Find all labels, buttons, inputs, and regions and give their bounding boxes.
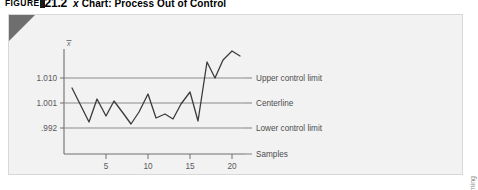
x-tick-label-20: 20 — [227, 162, 237, 171]
copyright-credit: © Cengage Learning — [469, 176, 476, 190]
figure-title: x Chart: Process Out of Control — [73, 0, 226, 9]
lower-control-limit-label: Lower control limit — [256, 124, 323, 133]
y-axis-title: x — [66, 40, 71, 47]
figure-panel: x 1.010 1.001 .992 5 10 15 20 — [8, 14, 463, 175]
centerline-label: Centerline — [256, 99, 294, 108]
figure-number: 21.2 — [45, 0, 68, 10]
figure-title-text: Chart: Process Out of Control — [82, 0, 227, 9]
x-bar-symbol: x — [73, 0, 79, 9]
figure-label-word: FIGURE — [5, 0, 40, 8]
x-tick-label-15: 15 — [185, 162, 195, 171]
figure-caption: FIGURE21.2x Chart: Process Out of Contro… — [5, 0, 226, 10]
control-chart-plot: x 1.010 1.001 .992 5 10 15 20 — [9, 15, 464, 176]
y-tick-label-lower: .992 — [41, 124, 57, 133]
x-tick-label-10: 10 — [143, 162, 153, 171]
sample-means-line — [72, 51, 240, 124]
x-tick-label-5: 5 — [104, 162, 109, 171]
x-axis-label: Samples — [256, 150, 288, 159]
y-tick-label-center: 1.001 — [37, 99, 58, 108]
upper-control-limit-label: Upper control limit — [256, 74, 323, 83]
y-tick-label-upper: 1.010 — [37, 74, 58, 83]
